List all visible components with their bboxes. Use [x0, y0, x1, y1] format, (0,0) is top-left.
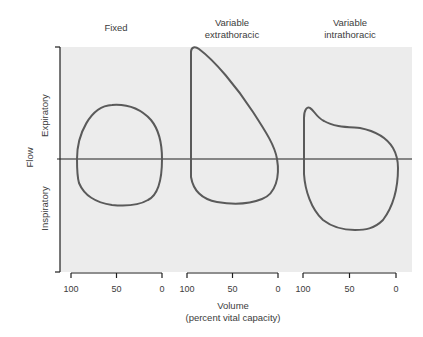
- tick-label-intrathoracic-0: 0: [393, 284, 398, 294]
- x-axis-title-subtitle: (percent vital capacity): [133, 312, 333, 324]
- flow-volume-loop-figure: Fixed Variable extrathoracic Variable in…: [0, 0, 423, 337]
- tick-label-fixed-0: 0: [159, 284, 164, 294]
- tick-label-intrathoracic-50: 50: [344, 284, 354, 294]
- tick-label-extrathoracic-50: 50: [227, 284, 237, 294]
- y-axis-inspiratory-label: Inspiratory: [39, 179, 50, 239]
- y-axis-title: Flow: [24, 143, 35, 173]
- tick-label-extrathoracic-0: 0: [275, 284, 280, 294]
- x-axis-fixed: [71, 273, 162, 278]
- x-axis-variable-intrathoracic: [303, 273, 396, 278]
- tick-label-fixed-50: 50: [111, 284, 121, 294]
- y-axis-expiratory-label: Expiratory: [39, 86, 50, 146]
- x-axis-variable-extrathoracic: [187, 273, 278, 278]
- tick-label-fixed-100: 100: [63, 284, 78, 294]
- tick-label-extrathoracic-100: 100: [179, 284, 194, 294]
- x-axis-title-main: Volume: [133, 300, 333, 312]
- x-axis-title: Volume (percent vital capacity): [133, 300, 333, 323]
- tick-label-intrathoracic-100: 100: [295, 284, 310, 294]
